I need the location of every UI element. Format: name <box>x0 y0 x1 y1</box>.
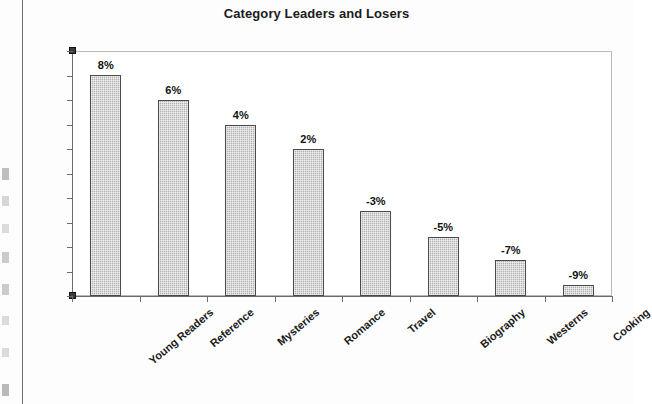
bar[interactable] <box>225 125 256 296</box>
y-axis-tick <box>67 100 73 101</box>
y-axis-tick <box>67 174 73 175</box>
bar-value-label: 8% <box>76 59 136 71</box>
bar-value-label: 6% <box>143 84 203 96</box>
bar[interactable] <box>158 100 189 296</box>
category-label: Young Readers <box>146 306 215 367</box>
y-axis-tick <box>67 149 73 150</box>
category-label: Romance <box>342 306 388 347</box>
x-axis-tick <box>410 296 411 302</box>
bar[interactable] <box>428 237 459 296</box>
x-axis-tick <box>477 296 478 302</box>
bar-value-label: 4% <box>211 109 271 121</box>
y-axis-tick <box>67 51 73 52</box>
category-label: Cooking <box>611 306 652 343</box>
bar[interactable] <box>495 260 526 296</box>
category-label: Biography <box>478 306 527 350</box>
y-axis-tick <box>67 198 73 199</box>
category-label: Reference <box>208 306 256 349</box>
y-axis-tick <box>67 272 73 273</box>
bar-value-label: -5% <box>413 221 473 233</box>
bar[interactable] <box>90 75 121 296</box>
bar-value-label: 2% <box>278 133 338 145</box>
bar-value-label: -9% <box>548 269 608 281</box>
x-axis-tick <box>72 296 73 302</box>
x-axis-tick <box>612 296 613 302</box>
category-label: Westerns <box>544 306 590 347</box>
x-axis-tick <box>545 296 546 302</box>
y-axis-tick <box>67 223 73 224</box>
bar-value-label: -3% <box>346 195 406 207</box>
x-axis-tick <box>342 296 343 302</box>
x-axis-tick <box>275 296 276 302</box>
x-axis-tick <box>207 296 208 302</box>
bar[interactable] <box>360 211 391 296</box>
x-axis-tick <box>140 296 141 302</box>
y-axis-tick <box>67 125 73 126</box>
y-axis-tick <box>67 76 73 77</box>
bar[interactable] <box>563 285 594 296</box>
chart-title: Category Leaders and Losers <box>0 6 633 21</box>
category-label: Mysteries <box>275 306 322 348</box>
bar-value-label: -7% <box>481 244 541 256</box>
bar[interactable] <box>293 149 324 296</box>
y-axis-tick <box>67 247 73 248</box>
category-label: Travel <box>405 306 437 336</box>
